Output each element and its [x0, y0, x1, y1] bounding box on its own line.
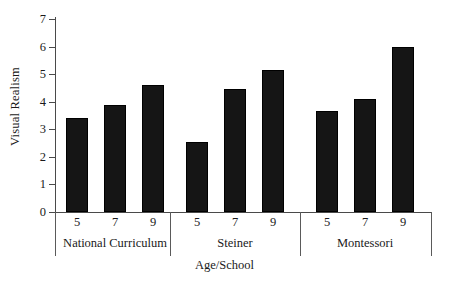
- bar: [142, 85, 164, 212]
- age-tick-label: 7: [100, 215, 130, 230]
- y-axis-tick-label: 7: [16, 13, 46, 26]
- group-separator: [55, 212, 56, 256]
- age-tick-label: 9: [258, 215, 288, 230]
- y-axis-tick-label: 0: [16, 206, 46, 219]
- group-separator: [170, 212, 171, 256]
- bar: [186, 142, 208, 212]
- y-axis-tick-label: 5: [16, 68, 46, 81]
- y-axis-tick: [49, 129, 55, 130]
- y-axis-tick: [49, 74, 55, 75]
- y-axis-tick-labels: 01234567: [8, 0, 46, 286]
- y-axis-tick-label: 3: [16, 123, 46, 136]
- y-axis-tick-label: 1: [16, 178, 46, 191]
- age-tick-label: 5: [62, 215, 92, 230]
- age-tick-label: 9: [388, 215, 418, 230]
- y-axis-tick-label: 6: [16, 40, 46, 53]
- bar: [392, 47, 414, 212]
- age-tick-label: 7: [350, 215, 380, 230]
- age-tick-label: 5: [182, 215, 212, 230]
- x-axis-title: Age/School: [0, 258, 449, 273]
- group-separator: [300, 212, 301, 256]
- y-axis-tick: [49, 19, 55, 20]
- age-tick-label: 9: [138, 215, 168, 230]
- bar-chart: Visual Realism 01234567 579National Curr…: [0, 0, 449, 286]
- bar: [104, 105, 126, 212]
- y-axis-tick: [49, 102, 55, 103]
- y-axis-tick-label: 2: [16, 151, 46, 164]
- y-axis-tick: [49, 47, 55, 48]
- bar: [316, 111, 338, 212]
- plot-area: [56, 19, 421, 212]
- group-separator: [431, 212, 432, 256]
- bar: [262, 70, 284, 212]
- group-label: National Curriculum: [63, 236, 167, 251]
- y-axis-tick-label: 4: [16, 95, 46, 108]
- y-axis-tick: [49, 157, 55, 158]
- x-axis-line: [55, 212, 432, 213]
- group-label: Montessori: [337, 236, 393, 251]
- bar: [224, 89, 246, 212]
- group-label: Steiner: [217, 236, 252, 251]
- y-axis-tick: [49, 184, 55, 185]
- bar: [66, 118, 88, 212]
- bar: [354, 99, 376, 212]
- age-tick-label: 5: [312, 215, 342, 230]
- age-tick-label: 7: [220, 215, 250, 230]
